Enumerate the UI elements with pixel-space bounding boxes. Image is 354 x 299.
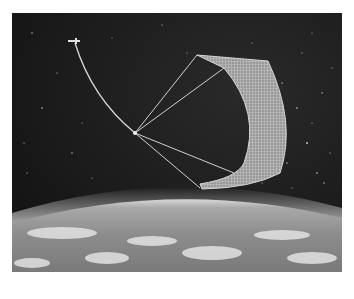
space-illustration bbox=[12, 13, 342, 272]
hub-node bbox=[133, 131, 137, 135]
scene-svg bbox=[12, 13, 342, 272]
